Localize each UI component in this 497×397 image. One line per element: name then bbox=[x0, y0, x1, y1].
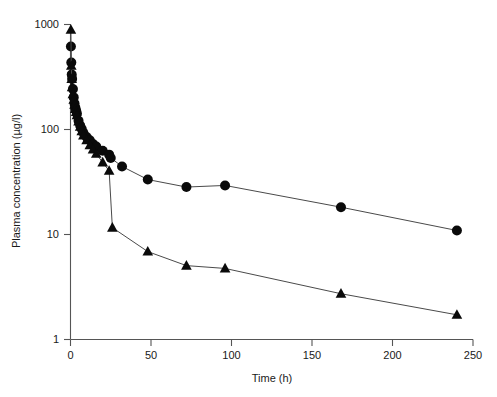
data-point-triangle bbox=[66, 24, 77, 34]
data-point-circle bbox=[143, 175, 153, 185]
x-tick-label-0: 0 bbox=[67, 349, 73, 361]
y-tick-label-1000: 1000 bbox=[35, 18, 59, 30]
y-axis-title: Plasma concentration (µg/l) bbox=[10, 114, 22, 248]
series-line-triangle bbox=[71, 30, 457, 315]
x-axis-title: Time (h) bbox=[252, 372, 293, 384]
x-tick-label-50: 50 bbox=[145, 349, 157, 361]
data-point-circle bbox=[181, 182, 191, 192]
data-point-circle bbox=[452, 225, 462, 235]
y-tick-label-1: 1 bbox=[53, 333, 59, 345]
data-point-triangle bbox=[181, 260, 192, 270]
data-point-triangle bbox=[220, 263, 231, 273]
data-point-circle bbox=[220, 180, 230, 190]
data-point-circle bbox=[106, 153, 116, 163]
data-point-circle bbox=[336, 202, 346, 212]
chart-canvas: 1000 100 10 1 0 50 100 150 200 250 Time … bbox=[0, 0, 497, 397]
x-tick-label-150: 150 bbox=[303, 349, 321, 361]
pharmacokinetic-chart: 1000 100 10 1 0 50 100 150 200 250 Time … bbox=[0, 0, 497, 397]
series-triangle bbox=[66, 24, 463, 319]
x-tick-label-100: 100 bbox=[222, 349, 240, 361]
series-circle bbox=[66, 42, 462, 236]
data-point-circle bbox=[117, 161, 127, 171]
data-point-triangle bbox=[107, 222, 118, 232]
x-tick-label-250: 250 bbox=[464, 349, 482, 361]
y-tick-label-100: 100 bbox=[41, 123, 59, 135]
series-line-circle bbox=[71, 47, 457, 231]
x-tick-marks bbox=[71, 340, 474, 347]
data-point-triangle bbox=[142, 246, 153, 256]
x-tick-label-200: 200 bbox=[383, 349, 401, 361]
y-tick-label-10: 10 bbox=[47, 228, 59, 240]
data-series-layer bbox=[66, 24, 463, 319]
